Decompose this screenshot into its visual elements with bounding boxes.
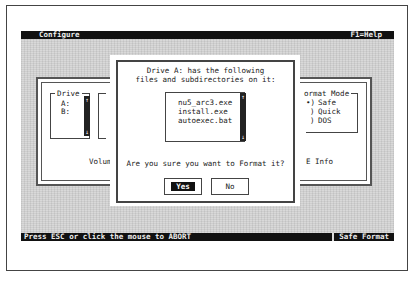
file-list[interactable]: nu5_arc3.exe install.exe autoexec.bat ↑ … <box>165 92 245 142</box>
status-mode: Safe Format <box>332 233 394 241</box>
info-label: E Info <box>306 157 333 166</box>
scroll-down-icon[interactable]: ↓ <box>240 134 246 140</box>
file-item[interactable]: autoexec.bat <box>178 116 232 125</box>
radio-selected-icon: •) <box>306 98 315 107</box>
title-bar: Configure F1=Help <box>21 31 394 39</box>
radio-icon: ) <box>310 116 315 125</box>
dialog-question: Are you sure you want to Format it? <box>118 159 293 168</box>
option-label: Quick <box>318 107 341 116</box>
window-title: Configure <box>39 31 80 39</box>
file-item[interactable]: install.exe <box>178 107 228 116</box>
scroll-down-icon[interactable]: ↓ <box>84 129 90 135</box>
no-button-label: No <box>225 182 234 191</box>
option-label: DOS <box>318 116 332 125</box>
radio-icon: ) <box>310 107 315 116</box>
format-mode-label: ormat Mode <box>304 89 351 98</box>
format-mode-group: ormat Mode •) Safe ) Quick ) DOS <box>306 93 358 133</box>
drive-b-item[interactable]: B: <box>61 107 70 116</box>
help-hint[interactable]: F1=Help <box>350 31 382 39</box>
volume-label: Volum <box>89 157 112 166</box>
drive-group: Drive A: B: ↑ ↓ <box>50 93 90 139</box>
status-message: Press ESC or click the mouse to ABORT <box>24 233 191 241</box>
drive-scrollbar[interactable]: ↑ ↓ <box>84 96 90 136</box>
dos-screen: Configure F1=Help Drive A: B: ↑ ↓ Volum … <box>21 31 394 240</box>
status-bar: Press ESC or click the mouse to ABORT Sa… <box>21 233 394 241</box>
no-button[interactable]: No <box>211 178 249 195</box>
directory-group <box>98 93 106 139</box>
file-item[interactable]: nu5_arc3.exe <box>178 98 232 107</box>
scroll-up-icon[interactable]: ↑ <box>240 94 246 100</box>
yes-button[interactable]: Yes <box>164 178 202 195</box>
dialog-message-line1: Drive A: has the following <box>118 66 293 75</box>
dialog-message-line2: files and subdirectories on it: <box>118 75 293 84</box>
file-list-scrollbar[interactable]: ↑ ↓ <box>240 93 246 141</box>
option-label: Safe <box>318 98 336 107</box>
format-confirm-dialog: Drive A: has the following files and sub… <box>116 60 295 203</box>
drive-a-item[interactable]: A: <box>61 99 70 108</box>
drive-group-label: Drive <box>55 89 82 98</box>
yes-button-label: Yes <box>171 182 195 191</box>
scroll-up-icon[interactable]: ↑ <box>84 97 90 103</box>
